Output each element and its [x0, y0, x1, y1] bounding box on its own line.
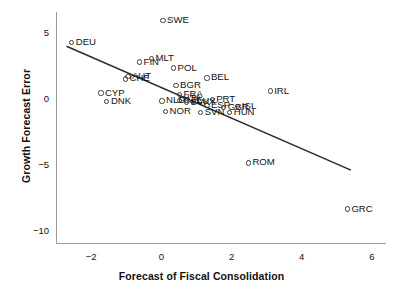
point-marker-icon: [160, 18, 165, 23]
y-tick-label: −5: [23, 159, 49, 170]
point-marker-icon: [246, 160, 251, 165]
point-label: HUN: [234, 106, 255, 117]
point-marker-icon: [137, 59, 142, 64]
x-tick-label: −2: [76, 251, 106, 262]
x-axis-title: Forecast of Fiscal Consolidation: [0, 270, 403, 282]
x-tick-label: 4: [287, 251, 317, 262]
point-label: ROM: [252, 156, 274, 167]
x-tick-label: 2: [217, 251, 247, 262]
point-label: NLD: [166, 94, 185, 105]
y-tick-label: 0: [23, 93, 49, 104]
point-marker-icon: [171, 65, 176, 70]
point-label: DEU: [76, 36, 96, 47]
point-label: NOR: [170, 105, 191, 116]
plot-area: [56, 12, 386, 244]
point-label: DNK: [111, 95, 131, 106]
x-tick-label: 0: [146, 251, 176, 262]
point-marker-icon: [98, 90, 103, 95]
point-marker-icon: [268, 88, 273, 93]
point-marker-icon: [173, 83, 178, 88]
point-marker-icon: [123, 76, 128, 81]
point-label: BEL: [211, 71, 229, 82]
point-marker-icon: [345, 206, 350, 211]
point-label: SVN: [205, 106, 225, 117]
point-marker-icon: [204, 75, 209, 80]
point-marker-icon: [149, 56, 154, 61]
scatter-chart: Growth Forecast Error Forecast of Fiscal…: [0, 0, 403, 293]
point-marker-icon: [159, 98, 164, 103]
x-tick-label: 6: [357, 251, 387, 262]
plot-svg: [56, 12, 386, 244]
point-label: IRL: [274, 85, 289, 96]
point-label: MLT: [155, 52, 173, 63]
point-label: GRC: [351, 203, 372, 214]
point-label: SWE: [167, 14, 189, 25]
point-label: CHE: [130, 72, 150, 83]
y-tick-label: −10: [23, 225, 49, 236]
y-tick-label: 5: [23, 27, 49, 38]
point-label: POL: [178, 62, 197, 73]
y-axis-title: Growth Forecast Error: [20, 56, 32, 196]
